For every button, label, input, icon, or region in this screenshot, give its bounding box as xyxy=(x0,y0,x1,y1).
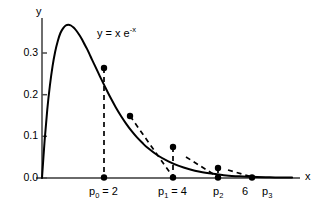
x-label-p2: p2 xyxy=(213,185,223,200)
p0-value: = 2 xyxy=(99,185,118,197)
equation-label: y = x e-x xyxy=(97,25,136,39)
point-p1-axis xyxy=(170,174,176,180)
y-tick-label-00: 0.0 xyxy=(14,171,38,183)
plot-canvas xyxy=(0,0,324,215)
marker-points xyxy=(101,65,255,181)
point-p0-axis xyxy=(101,174,107,180)
y-tick-label-01: 0.1 xyxy=(14,129,38,141)
dashed-secant-1 xyxy=(130,116,173,177)
y-tick-label-02: 0.2 xyxy=(14,88,38,100)
point-p2-axis xyxy=(215,174,221,180)
p1-value: = 4 xyxy=(168,185,187,197)
point-p3-axis xyxy=(249,174,255,180)
p3-subscript: 3 xyxy=(268,191,272,200)
point-p0-curve xyxy=(101,65,107,71)
equation-exponent: -x xyxy=(130,25,136,34)
equation-text: y = x e xyxy=(97,27,130,39)
x-label-six: 6 xyxy=(242,185,248,197)
x-axis-label: x xyxy=(305,170,311,182)
p2-subscript: 2 xyxy=(219,191,223,200)
math-figure: y x 0.3 0.2 0.1 0.0 y = x e-x p0 = 2 p1 … xyxy=(0,0,324,215)
point-p2-curve xyxy=(215,165,221,171)
x-label-p3: p3 xyxy=(262,185,272,200)
y-axis-label: y xyxy=(36,5,42,17)
six-text: 6 xyxy=(242,185,248,197)
x-label-p0: p0 = 2 xyxy=(89,185,118,200)
y-tick-label-03: 0.3 xyxy=(14,46,38,58)
function-curve xyxy=(42,25,292,178)
point-p1-curve xyxy=(170,144,176,150)
point-mid-curve xyxy=(127,113,133,119)
x-label-p1: p1 = 4 xyxy=(158,185,187,200)
